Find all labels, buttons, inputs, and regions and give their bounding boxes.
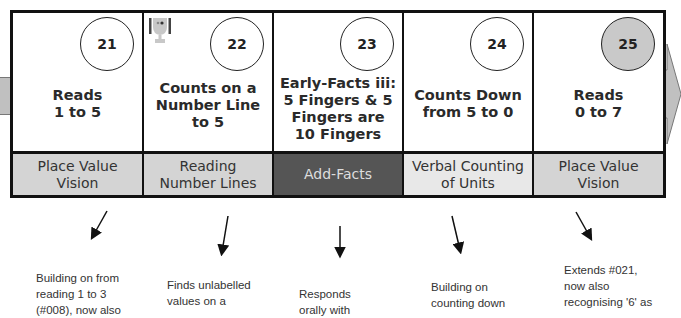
card-25[interactable]: 25 Reads 0 to 7 Place Value Vision (534, 13, 663, 195)
note-line: now also (564, 278, 652, 294)
note-21: Building on from reading 1 to 3 (#008), … (36, 270, 121, 318)
step-number-badge: 22 (210, 17, 264, 71)
note-23: Responds orally with (299, 286, 351, 318)
card-top: 25 Reads 0 to 7 (534, 13, 663, 151)
category-line: Vision (37, 175, 117, 192)
card-title: Reads 1 to 5 (17, 87, 138, 121)
note-25: Extends #021, now also recognising '6' a… (564, 262, 652, 310)
card-24[interactable]: 24 Counts Down from 5 to 0 Verbal Counti… (404, 13, 534, 195)
category-label: Add-Facts (274, 151, 402, 195)
category-line: Verbal Counting (412, 158, 524, 175)
category-line: of Units (412, 175, 524, 192)
note-line: Extends #021, (564, 262, 652, 278)
note-22: Finds unlabelled values on a (167, 277, 251, 309)
card-21[interactable]: 21 Reads 1 to 5 Place Value Vision (13, 13, 144, 195)
arrow-down-right-icon (576, 212, 590, 237)
card-top: 23 Early-Facts iii: 5 Fingers & 5 Finger… (274, 13, 402, 151)
card-title: Early-Facts iii: 5 Fingers & 5 Fingers a… (278, 75, 398, 143)
card-22[interactable]: 22 Counts on a Number Line to 5 Reading … (144, 13, 274, 195)
category-label: Place Value Vision (13, 151, 142, 195)
card-title: Counts Down from 5 to 0 (408, 87, 528, 121)
card-title-line: Reads (17, 87, 138, 104)
note-line: recognising '6' as (564, 294, 652, 310)
step-number-badge: 21 (80, 17, 134, 71)
arrow-down-icon (222, 216, 228, 252)
category-line: Number Lines (159, 175, 256, 192)
note-line: Responds (299, 286, 351, 302)
note-line: reading 1 to 3 (36, 286, 121, 302)
card-title-line: Counts Down (408, 87, 528, 104)
note-line: (#008), now also (36, 302, 121, 318)
category-label: Place Value Vision (534, 151, 663, 195)
step-number-badge: 25 (601, 17, 655, 71)
note-line: Finds unlabelled (167, 277, 251, 293)
card-23[interactable]: 23 Early-Facts iii: 5 Fingers & 5 Finger… (274, 13, 404, 195)
card-title-line: 0 to 7 (538, 104, 659, 121)
outgoing-flow-arrow-icon (664, 44, 681, 144)
card-title-line: 10 Fingers (278, 126, 398, 143)
card-title-line: 5 Fingers & 5 (278, 92, 398, 109)
trophy-icon (148, 15, 172, 45)
card-top: 21 Reads 1 to 5 (13, 13, 142, 151)
card-top: 22 Counts on a Number Line to 5 (144, 13, 272, 151)
step-number-badge: 24 (470, 17, 524, 71)
card-title: Counts on a Number Line to 5 (148, 80, 268, 131)
card-title-line: Reads (538, 87, 659, 104)
note-line: Building on from (36, 270, 121, 286)
category-line: Place Value (37, 158, 117, 175)
category-line: Add-Facts (304, 166, 372, 183)
card-title-line: from 5 to 0 (408, 104, 528, 121)
category-label: Verbal Counting of Units (404, 151, 532, 195)
card-title-line: Number Line (148, 97, 268, 114)
note-line: Building on (431, 279, 505, 295)
card-title: Reads 0 to 7 (538, 87, 659, 121)
category-label: Reading Number Lines (144, 151, 272, 195)
note-line: counting down (431, 295, 505, 311)
note-24: Building on counting down (431, 279, 505, 311)
card-title-line: Fingers are (278, 109, 398, 126)
card-title-line: to 5 (148, 114, 268, 131)
card-title-line: Counts on a (148, 80, 268, 97)
step-number-badge: 23 (340, 17, 394, 71)
note-line: orally with (299, 302, 351, 318)
arrow-down-right-icon (452, 216, 460, 250)
note-line: values on a (167, 293, 251, 309)
arrow-down-left-icon (93, 211, 107, 236)
category-line: Vision (558, 175, 638, 192)
card-top: 24 Counts Down from 5 to 0 (404, 13, 532, 151)
category-line: Place Value (558, 158, 638, 175)
category-line: Reading (159, 158, 256, 175)
learning-sequence-board: 21 Reads 1 to 5 Place Value Vision (10, 10, 666, 198)
card-title-line: 1 to 5 (17, 104, 138, 121)
card-title-line: Early-Facts iii: (278, 75, 398, 92)
